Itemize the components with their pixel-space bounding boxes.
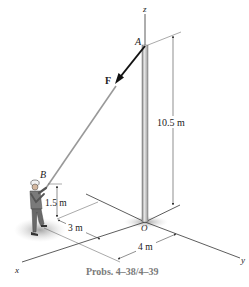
force-vector	[121, 46, 145, 76]
pole-top-extension-line	[148, 32, 181, 45]
axis-back-line	[86, 194, 145, 222]
figure-caption: Probs. 4–38/4–39	[86, 266, 159, 277]
y-axis	[145, 222, 240, 258]
z-axis-label: z	[142, 4, 147, 14]
x-axis-label: x	[14, 265, 19, 275]
rope	[46, 86, 116, 188]
y-offset-label: 4 m	[138, 242, 153, 252]
statics-figure: 10.5 m z A F B O x y 1.5 m 3 m 4 m Probs…	[0, 0, 249, 287]
pole	[142, 45, 148, 222]
origin-label: O	[141, 223, 148, 233]
force-label: F	[105, 75, 111, 86]
y-axis-label: y	[240, 255, 245, 265]
point-b-label: B	[40, 169, 46, 180]
pole-height-label: 10.5 m	[157, 117, 185, 128]
hand-height-label: 1.5 m	[45, 198, 67, 208]
point-a-label: A	[134, 36, 142, 47]
y-offset-extension-line	[44, 228, 120, 262]
x-offset-label: 3 m	[68, 223, 83, 233]
